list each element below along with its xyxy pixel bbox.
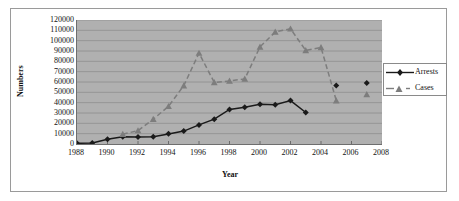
plot-area	[76, 20, 382, 145]
chart-legend: Arrests Cases	[383, 63, 447, 96]
plot-svg	[77, 20, 382, 144]
series-cases	[119, 25, 370, 137]
legend-label-cases: Cases	[415, 83, 434, 92]
x-tick-label: 2008	[361, 148, 401, 157]
chart-container: Numbers Year 010000200003000040000500006…	[0, 0, 459, 201]
legend-swatch-cases	[386, 81, 414, 96]
legend-swatch-arrests	[386, 65, 414, 80]
legend-item-cases[interactable]: Cases	[384, 81, 446, 96]
legend-item-arrests[interactable]: Arrests	[384, 65, 446, 80]
legend-label-arrests: Arrests	[415, 67, 438, 76]
